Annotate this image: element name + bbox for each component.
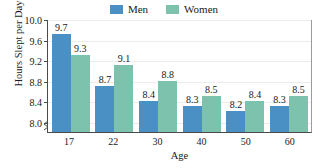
y-tick-mark (44, 61, 48, 62)
x-tick-label-60: 60 (271, 136, 309, 147)
legend-swatch-women (166, 5, 179, 14)
bar-group-50: 8.28.4 (226, 20, 264, 132)
bar-value-label: 8.8 (161, 69, 174, 80)
y-tick-label: 9.2 (30, 56, 43, 67)
bar-rect (139, 101, 158, 132)
y-tick-mark (44, 20, 48, 21)
bar-value-label: 8.5 (205, 84, 218, 95)
legend-entry-women: Women (166, 4, 218, 15)
bar-group-60: 8.38.5 (270, 20, 308, 132)
bar-group-17: 9.79.3 (52, 20, 90, 132)
bar-value-label: 8.5 (292, 84, 305, 95)
bar-rect (95, 86, 114, 132)
legend-label-women: Women (184, 4, 218, 15)
bar-rect (183, 106, 202, 132)
x-tick-label-30: 30 (138, 136, 176, 147)
y-tick-mark (44, 82, 48, 83)
bar-group-40: 8.38.5 (183, 20, 221, 132)
y-tick-label: 8.0 (30, 117, 43, 128)
x-tick-label-40: 40 (183, 136, 221, 147)
sleep-by-age-bar-chart: Men Women Hours Slept per Day 10.09.69.2… (0, 0, 328, 168)
y-tick-label: 8.4 (30, 97, 43, 108)
x-tick-label-50: 50 (227, 136, 265, 147)
bar-rect (245, 101, 264, 132)
x-tick-label-22: 22 (94, 136, 132, 147)
y-tick-mark (44, 41, 48, 42)
x-axis-tick-labels: 172230405060 (47, 136, 312, 147)
bar-value-label: 8.3 (273, 94, 286, 105)
plot-area: 10.09.69.28.88.48.0 9.79.38.79.18.48.88.… (47, 20, 312, 133)
y-tick-label: 10.0 (25, 15, 43, 26)
bar-rect (202, 96, 221, 132)
bar-value-label: 9.3 (74, 43, 87, 54)
bar-value-label: 9.1 (118, 53, 131, 64)
bar-value-label: 8.3 (186, 94, 199, 105)
bar-group-30: 8.48.8 (139, 20, 177, 132)
y-tick-label: 8.8 (30, 76, 43, 87)
legend-entry-men: Men (110, 4, 148, 15)
bar-rect (71, 55, 90, 132)
y-axis-title: Hours Slept per Day (13, 0, 24, 94)
legend-label-men: Men (128, 4, 148, 15)
bar-rect (114, 65, 133, 132)
legend-swatch-men (110, 5, 123, 14)
bar-value-label: 9.7 (55, 22, 68, 33)
y-tick-label: 9.6 (30, 35, 43, 46)
chart-legend: Men Women (0, 1, 328, 17)
bar-rect (289, 96, 308, 132)
bar-value-label: 8.7 (99, 74, 112, 85)
bar-group-22: 8.79.1 (95, 20, 133, 132)
x-tick-label-17: 17 (50, 136, 88, 147)
bar-rect (158, 81, 177, 132)
x-axis-title: Age (47, 150, 312, 161)
bar-value-label: 8.4 (142, 89, 155, 100)
bar-value-label: 8.2 (230, 99, 243, 110)
bar-rect (52, 34, 71, 132)
bar-groups: 9.79.38.79.18.48.88.38.58.28.48.38.5 (49, 20, 311, 132)
y-tick-mark (44, 102, 48, 103)
bar-value-label: 8.4 (249, 89, 262, 100)
bar-rect (270, 106, 289, 132)
bar-rect (226, 111, 245, 132)
